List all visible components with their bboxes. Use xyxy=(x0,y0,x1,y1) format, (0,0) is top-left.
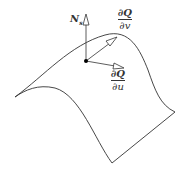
tangent-v-denominator: ∂v xyxy=(120,20,131,31)
surface-point xyxy=(84,59,88,63)
normal-label: Ns xyxy=(70,14,83,26)
tangent-u-denominator: ∂u xyxy=(112,81,124,92)
tangent-v-label: ∂Q ∂v xyxy=(118,8,132,31)
tangent-u-label: ∂Q ∂u xyxy=(111,69,125,92)
surface-diagram xyxy=(0,0,191,170)
surface-patch xyxy=(15,34,175,163)
tangent-v-numerator: ∂Q xyxy=(118,8,132,20)
normal-vector-arrow xyxy=(83,14,89,61)
tangent-u-numerator: ∂Q xyxy=(111,69,125,81)
